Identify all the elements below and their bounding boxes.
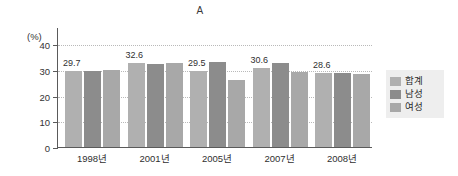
- bar[interactable]: 30.6: [253, 68, 270, 147]
- x-axis-line: [57, 147, 372, 148]
- bar[interactable]: [272, 63, 289, 147]
- bar[interactable]: [209, 62, 226, 147]
- bar[interactable]: [291, 72, 308, 147]
- y-tick-label: 40: [39, 40, 50, 51]
- bar[interactable]: 29.7: [65, 71, 82, 147]
- legend-item[interactable]: 여성: [390, 101, 440, 113]
- legend-swatch: [390, 77, 401, 86]
- y-tick-label: 30: [39, 65, 50, 76]
- bar-value-label: 32.6: [126, 50, 144, 60]
- y-tick-label: 10: [39, 117, 50, 128]
- bar[interactable]: 29.5: [190, 71, 207, 147]
- y-tick-mark: [53, 148, 57, 149]
- bar-group: 29.52005년: [190, 44, 246, 147]
- legend-item[interactable]: 합계: [390, 75, 440, 87]
- bar-group: 30.62007년: [253, 44, 309, 147]
- bar[interactable]: 32.6: [128, 63, 145, 147]
- legend-label: 여성: [405, 102, 423, 112]
- legend-swatch: [390, 103, 401, 112]
- bar[interactable]: [353, 74, 370, 147]
- bar-value-label: 29.7: [63, 58, 81, 68]
- legend-swatch: [390, 90, 401, 99]
- bar-value-label: 29.5: [188, 58, 206, 68]
- y-tick-label: 0: [45, 143, 50, 154]
- legend-label: 남성: [405, 89, 423, 99]
- x-tick-label: 1998년: [64, 151, 120, 165]
- bar[interactable]: [166, 63, 183, 147]
- legend-item[interactable]: 남성: [390, 88, 440, 100]
- legend-label: 합계: [405, 76, 423, 86]
- bar-value-label: 28.6: [313, 60, 331, 70]
- y-tick-mark: [53, 71, 57, 72]
- bar[interactable]: 28.6: [315, 73, 332, 147]
- y-axis-line: [57, 28, 58, 149]
- bar-value-label: 30.6: [251, 55, 269, 65]
- bar[interactable]: [147, 64, 164, 147]
- bar-group: 32.62001년: [128, 44, 184, 147]
- x-tick-label: 2007년: [252, 151, 308, 165]
- bar[interactable]: [334, 73, 351, 147]
- y-tick-mark: [53, 122, 57, 123]
- x-tick-label: 2008년: [314, 151, 370, 165]
- bar[interactable]: [228, 80, 245, 147]
- bar[interactable]: [84, 71, 101, 147]
- bar-group: 29.71998년: [65, 44, 121, 147]
- chart-title: A: [0, 5, 400, 16]
- x-tick-label: 2001년: [127, 151, 183, 165]
- y-tick-mark: [53, 97, 57, 98]
- bar[interactable]: [103, 70, 120, 147]
- x-tick-label: 2005년: [189, 151, 245, 165]
- chart-legend: 합계남성여성: [386, 70, 444, 118]
- y-tick-mark: [53, 45, 57, 46]
- bar-group: 28.62008년: [315, 44, 371, 147]
- y-tick-label: 20: [39, 91, 50, 102]
- plot-area: 010203040 29.71998년32.62001년29.52005년30.…: [57, 45, 372, 148]
